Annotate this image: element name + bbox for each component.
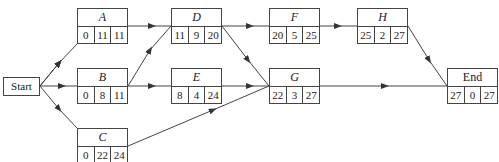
node-d: D 11920 xyxy=(171,8,222,44)
node-title: F xyxy=(270,9,319,27)
late-finish: 25 xyxy=(303,27,319,44)
node-title: H xyxy=(358,9,407,27)
network-diagram: Start A 01111 B 0811 C 02224 D 11920 E 8… xyxy=(0,0,499,162)
node-a: A 01111 xyxy=(77,8,128,44)
late-finish: 27 xyxy=(391,27,407,44)
early-start: 8 xyxy=(172,87,189,104)
edge-b-d xyxy=(128,50,150,86)
early-start: 0 xyxy=(78,87,95,104)
early-start: 20 xyxy=(270,27,287,44)
duration: 3 xyxy=(287,87,304,104)
node-title: G xyxy=(270,69,319,87)
duration: 0 xyxy=(465,87,482,104)
edge-start-c xyxy=(40,86,59,109)
node-title: E xyxy=(172,69,221,87)
duration: 5 xyxy=(287,27,304,44)
early-start: 11 xyxy=(172,27,189,44)
duration: 22 xyxy=(95,147,112,162)
start-node: Start xyxy=(3,77,40,96)
late-finish: 24 xyxy=(205,87,221,104)
edge-c-g xyxy=(128,110,213,146)
late-finish: 20 xyxy=(205,27,221,44)
node-title: B xyxy=(78,69,127,87)
late-finish: 27 xyxy=(303,87,319,104)
late-finish: 24 xyxy=(111,147,127,162)
node-h: H 25227 xyxy=(357,8,408,44)
early-start: 0 xyxy=(78,147,95,162)
node-title: End xyxy=(448,69,497,87)
early-start: 22 xyxy=(270,87,287,104)
late-finish: 11 xyxy=(111,87,127,104)
late-finish: 27 xyxy=(481,87,497,104)
node-b: B 0811 xyxy=(77,68,128,104)
edge-d-g xyxy=(222,26,248,60)
early-start: 0 xyxy=(78,27,95,44)
node-g: G 22327 xyxy=(269,68,320,104)
early-start: 27 xyxy=(448,87,465,104)
node-f: F 20525 xyxy=(269,8,320,44)
late-finish: 11 xyxy=(111,27,127,44)
duration: 9 xyxy=(189,27,206,44)
duration: 11 xyxy=(95,27,112,44)
node-end: End 27027 xyxy=(447,68,498,104)
early-start: 25 xyxy=(358,27,375,44)
node-title: A xyxy=(78,9,127,27)
node-e: E 8424 xyxy=(171,68,222,104)
node-c: C 02224 xyxy=(77,128,128,162)
duration: 2 xyxy=(375,27,392,44)
duration: 4 xyxy=(189,87,206,104)
edges-layer xyxy=(0,0,499,162)
node-title: C xyxy=(78,129,127,147)
edge-h-end xyxy=(408,26,429,60)
duration: 8 xyxy=(95,87,112,104)
node-title: D xyxy=(172,9,221,27)
